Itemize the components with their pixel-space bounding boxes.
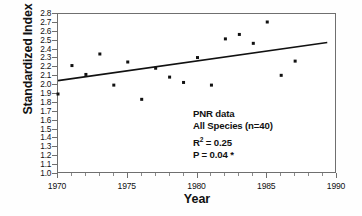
- data-point: [224, 37, 227, 40]
- y-tick-label: 1.2: [40, 151, 51, 159]
- y-tick-label: 2.4: [40, 45, 51, 53]
- data-point: [252, 42, 255, 45]
- y-tick-label: 2.1: [40, 71, 51, 79]
- x-tick-mark-minor: [308, 173, 309, 176]
- y-tick-label: 1.1: [40, 160, 51, 168]
- x-tick-mark-minor: [155, 173, 156, 176]
- data-point: [126, 61, 129, 64]
- data-point: [84, 73, 87, 76]
- x-tick-mark-major: [127, 173, 128, 178]
- data-point: [280, 74, 283, 77]
- y-tick-label: 1.7: [40, 107, 51, 115]
- x-tick-mark-minor: [113, 173, 114, 176]
- x-tick-mark-major: [266, 173, 267, 178]
- x-tick-label: 1970: [48, 181, 66, 191]
- data-point: [98, 53, 101, 56]
- x-tick-mark-minor: [238, 173, 239, 176]
- y-tick-label: 1.4: [40, 133, 51, 141]
- annotation-block: PNR data All Species (n=40) R2 = 0.25 P …: [193, 108, 273, 160]
- y-tick-label: 2.3: [40, 53, 51, 61]
- y-tick-label: 2.8: [40, 9, 51, 17]
- x-tick-label: 1985: [257, 181, 275, 191]
- y-tick-label: 1.6: [40, 116, 51, 124]
- x-tick-mark-major: [197, 173, 198, 178]
- x-tick-mark-minor: [183, 173, 184, 176]
- data-point: [266, 21, 269, 24]
- trendline: [58, 42, 327, 80]
- x-tick-mark-minor: [294, 173, 295, 176]
- x-tick-mark-minor: [224, 173, 225, 176]
- y-axis-tick-labels: 1.01.11.21.31.41.51.61.71.81.92.02.12.22…: [0, 13, 55, 173]
- data-point: [182, 81, 185, 84]
- x-tick-label: 1980: [187, 181, 205, 191]
- x-axis-title: Year: [57, 192, 337, 206]
- x-tick-label: 1990: [327, 181, 345, 191]
- x-tick-mark-minor: [141, 173, 142, 176]
- y-tick-label: 2.7: [40, 18, 51, 26]
- x-tick-label: 1975: [118, 181, 136, 191]
- data-point: [70, 64, 73, 67]
- y-tick-label: 2.2: [40, 62, 51, 70]
- data-point: [168, 76, 171, 79]
- x-tick-mark-minor: [85, 173, 86, 176]
- annotation-r-squared: R2 = 0.25: [193, 137, 273, 149]
- annotation-p-value: P = 0.04 *: [193, 149, 273, 161]
- y-tick-label: 1.8: [40, 98, 51, 106]
- data-point: [196, 56, 199, 59]
- x-tick-mark-minor: [210, 173, 211, 176]
- data-point: [140, 98, 143, 101]
- data-point: [57, 93, 60, 96]
- x-tick-mark-major: [336, 173, 337, 178]
- x-tick-mark-minor: [99, 173, 100, 176]
- y-tick-label: 2.6: [40, 27, 51, 35]
- x-tick-mark-minor: [71, 173, 72, 176]
- y-tick-label: 1.5: [40, 125, 51, 133]
- x-tick-mark-minor: [252, 173, 253, 176]
- y-tick-label: 1.9: [40, 89, 51, 97]
- regression-line: [58, 42, 327, 80]
- annotation-dataset: PNR data: [193, 108, 273, 120]
- y-tick-label: 2.5: [40, 36, 51, 44]
- data-point: [112, 84, 115, 87]
- y-tick-label: 2.0: [40, 80, 51, 88]
- r2-value: = 0.25: [203, 137, 232, 148]
- x-tick-mark-minor: [169, 173, 170, 176]
- y-tick-label: 1.3: [40, 142, 51, 150]
- r2-symbol: R: [193, 137, 200, 148]
- data-point: [294, 60, 297, 63]
- x-tick-mark-major: [57, 173, 58, 178]
- x-tick-mark-minor: [280, 173, 281, 176]
- chart-figure: Standardized Index 1.01.11.21.31.41.51.6…: [0, 0, 362, 216]
- data-point: [210, 84, 213, 87]
- data-point: [154, 67, 157, 70]
- x-axis-tick-labels: 19701975198019851990: [0, 175, 362, 191]
- scatter-points: [57, 21, 297, 101]
- x-tick-mark-minor: [322, 173, 323, 176]
- data-point: [238, 33, 241, 36]
- annotation-species: All Species (n=40): [193, 120, 273, 132]
